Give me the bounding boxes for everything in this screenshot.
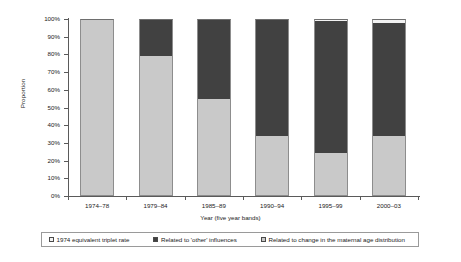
legend-item[interactable]: Related to 'other' influences bbox=[153, 236, 236, 243]
bar-segment-other-influences[interactable] bbox=[197, 19, 231, 99]
x-tick-mark bbox=[301, 196, 302, 200]
stacked-bar[interactable] bbox=[314, 19, 348, 196]
x-axis-line bbox=[68, 196, 420, 197]
stacked-bar[interactable] bbox=[372, 19, 406, 196]
y-tick-label: 50% bbox=[34, 105, 60, 111]
bar-segment-maternal-age[interactable] bbox=[139, 56, 173, 196]
bar-segment-maternal-age[interactable] bbox=[80, 19, 114, 196]
legend-label: 1974 equivalent triplet rate bbox=[57, 236, 130, 243]
legend-swatch-icon bbox=[49, 237, 54, 242]
stacked-bar[interactable] bbox=[80, 19, 114, 196]
bar-segment-other-influences[interactable] bbox=[314, 21, 348, 153]
x-tick-mark bbox=[68, 196, 69, 200]
x-tick-mark bbox=[243, 196, 244, 200]
y-tick-label: 70% bbox=[34, 69, 60, 75]
y-tick-label: 10% bbox=[34, 175, 60, 181]
bar-segment-1974-equivalent[interactable] bbox=[372, 19, 406, 23]
bar-segment-maternal-age[interactable] bbox=[372, 136, 406, 196]
y-tick-label: 30% bbox=[34, 140, 60, 146]
bar-segment-other-influences[interactable] bbox=[139, 19, 173, 56]
bar-segment-other-influences[interactable] bbox=[372, 23, 406, 136]
stacked-bar[interactable] bbox=[197, 19, 231, 196]
bar-group[interactable] bbox=[80, 19, 114, 196]
bar-group[interactable] bbox=[372, 19, 406, 196]
bar-group[interactable] bbox=[197, 19, 231, 196]
y-tick-label: 80% bbox=[34, 51, 60, 57]
bar-segment-maternal-age[interactable] bbox=[314, 153, 348, 196]
x-tick-mark bbox=[126, 196, 127, 200]
y-tick-label: 0% bbox=[34, 193, 60, 199]
bar-group[interactable] bbox=[314, 19, 348, 196]
legend-item[interactable]: 1974 equivalent triplet rate bbox=[49, 236, 129, 243]
x-tick-mark bbox=[418, 196, 419, 200]
bar-segment-maternal-age[interactable] bbox=[197, 99, 231, 196]
y-tick-label: 40% bbox=[34, 122, 60, 128]
stacked-bar[interactable] bbox=[255, 19, 289, 196]
bar-segment-other-influences[interactable] bbox=[255, 19, 289, 136]
plot-area bbox=[68, 19, 418, 196]
y-tick-label: 20% bbox=[34, 158, 60, 164]
legend-item[interactable]: Related to change in the maternal age di… bbox=[261, 236, 405, 243]
y-tick-label: 90% bbox=[34, 34, 60, 40]
legend-swatch-icon bbox=[153, 237, 158, 242]
stacked-bar-chart: Proportion 0%10%20%30%40%50%60%70%80%90%… bbox=[0, 0, 461, 262]
legend-label: Related to 'other' influences bbox=[161, 236, 237, 243]
y-tick-label: 100% bbox=[34, 16, 60, 22]
y-axis-title: Proportion bbox=[19, 59, 26, 129]
x-tick-mark bbox=[360, 196, 361, 200]
legend-swatch-icon bbox=[261, 237, 266, 242]
y-tick-label: 60% bbox=[34, 87, 60, 93]
bar-group[interactable] bbox=[139, 19, 173, 196]
bar-group[interactable] bbox=[255, 19, 289, 196]
x-axis-title: Year (five year bands) bbox=[0, 214, 461, 221]
x-tick-mark bbox=[185, 196, 186, 200]
bar-segment-1974-equivalent[interactable] bbox=[314, 19, 348, 21]
x-tick-label: 2000–03 bbox=[354, 202, 424, 210]
stacked-bar[interactable] bbox=[139, 19, 173, 196]
legend-label: Related to change in the maternal age di… bbox=[268, 236, 405, 243]
bar-segment-maternal-age[interactable] bbox=[255, 136, 289, 196]
chart-legend: 1974 equivalent triplet rateRelated to '… bbox=[41, 232, 419, 247]
